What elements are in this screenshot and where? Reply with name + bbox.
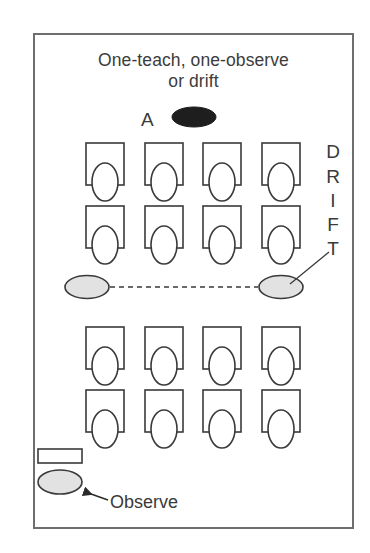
classroom-layout xyxy=(0,0,370,553)
student-desk xyxy=(203,206,241,264)
student-head-icon xyxy=(268,163,294,201)
student-head-icon xyxy=(209,347,235,385)
student-head-icon xyxy=(268,347,294,385)
student-head-icon xyxy=(151,163,177,201)
student-head-icon xyxy=(268,410,294,448)
student-head-icon xyxy=(209,410,235,448)
observer-teacher-icon xyxy=(38,470,82,494)
student-desk xyxy=(145,327,183,385)
student-head-icon xyxy=(151,347,177,385)
coteaching-diagram: One-teach, one-observe or drift A DRIFT … xyxy=(0,0,370,553)
student-desk xyxy=(145,390,183,448)
drift-leader-line xyxy=(290,252,329,284)
student-desk xyxy=(262,327,300,385)
student-head-icon xyxy=(268,226,294,264)
student-desk xyxy=(86,327,124,385)
student-desk xyxy=(262,390,300,448)
student-desk xyxy=(86,143,124,201)
student-head-icon xyxy=(92,347,118,385)
observe-arrow-icon xyxy=(91,494,108,500)
student-desk xyxy=(145,206,183,264)
student-desk xyxy=(203,327,241,385)
student-desk xyxy=(86,390,124,448)
student-desk xyxy=(145,143,183,201)
teacher-left-icon xyxy=(65,276,109,299)
student-desk xyxy=(203,390,241,448)
student-head-icon xyxy=(209,226,235,264)
student-head-icon xyxy=(92,410,118,448)
student-desk xyxy=(86,206,124,264)
teacher-a-icon xyxy=(172,107,216,127)
student-head-icon xyxy=(92,163,118,201)
student-head-icon xyxy=(209,163,235,201)
student-head-icon xyxy=(92,226,118,264)
student-desk xyxy=(262,206,300,264)
observer-desk xyxy=(38,449,82,463)
student-head-icon xyxy=(151,226,177,264)
student-desk xyxy=(262,143,300,201)
student-desk xyxy=(203,143,241,201)
student-head-icon xyxy=(151,410,177,448)
